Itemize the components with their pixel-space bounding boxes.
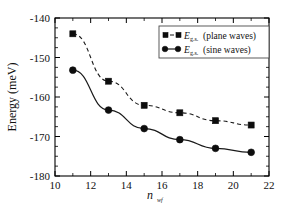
x-tick-label: 18 — [192, 179, 204, 191]
energy-convergence-chart: 10121416182022 -180-170-160-150-140 Ener… — [0, 0, 288, 209]
legend-label-plane-sub: g.s. — [190, 36, 199, 42]
x-tick-label: 14 — [121, 179, 133, 191]
y-tick-label: -180 — [30, 170, 51, 182]
data-point-square — [177, 110, 183, 116]
data-point-square — [141, 102, 147, 108]
chart-figure: 10121416182022 -180-170-160-150-140 Ener… — [0, 0, 288, 209]
chart-legend: E g.s. (plane waves) E g.s. (sine waves) — [159, 26, 269, 58]
data-point-circle — [248, 149, 255, 156]
data-point-square — [248, 122, 254, 128]
x-axis-title-base: n — [147, 188, 153, 202]
data-point-circle — [105, 107, 112, 114]
legend-label-sine-tail: (sine waves) — [203, 45, 251, 56]
y-tick-label: -150 — [30, 52, 51, 64]
legend-label-sine-base: E — [183, 45, 190, 55]
data-point-square — [70, 31, 76, 37]
data-point-circle — [141, 125, 148, 132]
y-axis-title: Energy (meV) — [5, 63, 19, 132]
legend-label-plane-base: E — [183, 31, 190, 41]
legend-label-plane-tail: (plane waves) — [203, 31, 256, 42]
y-tick-label: -160 — [30, 91, 51, 103]
x-tick-label: 10 — [50, 179, 62, 191]
y-tick-label: -170 — [30, 131, 51, 143]
x-tick-label: 20 — [228, 179, 240, 191]
legend-marker-circle-right — [175, 46, 181, 52]
x-tick-label: 12 — [85, 179, 96, 191]
legend-marker-circle-left — [162, 46, 168, 52]
x-tick-label: 16 — [157, 179, 169, 191]
data-point-circle — [176, 136, 183, 143]
data-point-circle — [212, 145, 219, 152]
legend-marker-square-left — [163, 33, 168, 38]
data-point-square — [106, 78, 112, 84]
y-tick-label: -140 — [30, 12, 51, 24]
legend-marker-square-right — [176, 33, 181, 38]
data-point-square — [213, 118, 219, 124]
data-point-circle — [69, 67, 76, 74]
x-tick-label: 22 — [264, 179, 275, 191]
legend-label-sine-sub: g.s. — [190, 50, 199, 56]
